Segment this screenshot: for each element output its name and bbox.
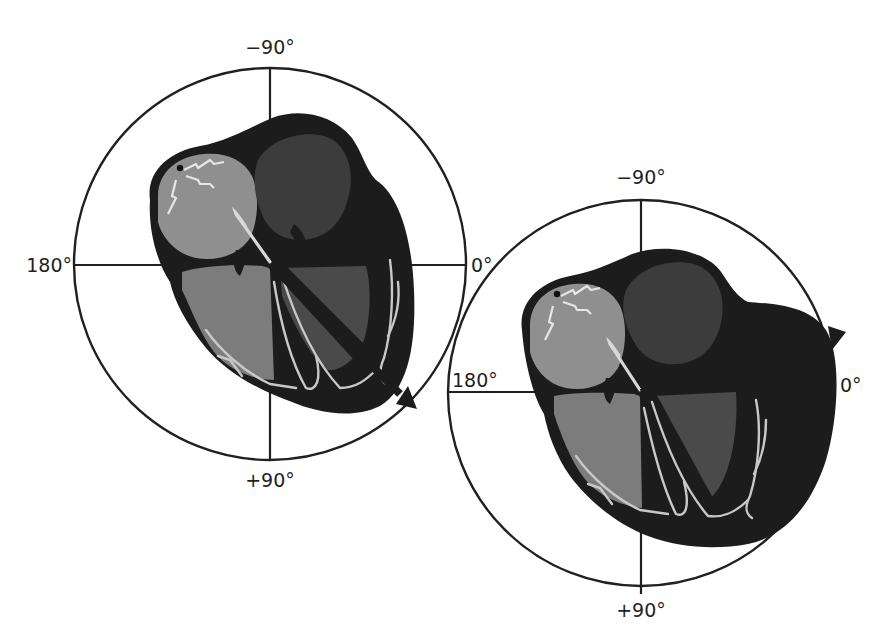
panel-left-axis-deviation: −90° 180° 0° +90° — [448, 166, 862, 621]
label-0: 0° — [840, 374, 862, 396]
label-plus-90: +90° — [616, 599, 666, 621]
axis-diagram: −90° 180° 0° +90° — [0, 0, 893, 642]
label-minus-90: −90° — [245, 36, 295, 58]
sa-node — [177, 165, 183, 171]
sa-node — [554, 291, 560, 297]
label-180: 180° — [26, 254, 72, 276]
label-minus-90: −90° — [616, 166, 666, 188]
panel-normal-axis: −90° 180° 0° +90° — [26, 36, 492, 491]
label-180: 180° — [452, 369, 498, 391]
heart-enlarged-lv — [522, 249, 837, 548]
right-atrium — [530, 284, 625, 389]
label-plus-90: +90° — [245, 469, 295, 491]
